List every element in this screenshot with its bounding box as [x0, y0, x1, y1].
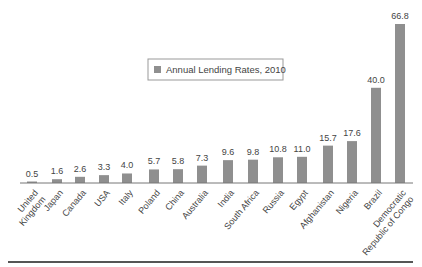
- value-label: 1.6: [51, 166, 64, 176]
- value-label: 5.7: [148, 156, 161, 166]
- value-label: 10.8: [269, 144, 287, 154]
- bar: [197, 166, 207, 183]
- bar: [52, 179, 62, 183]
- category-label: Brazil: [362, 188, 384, 212]
- bar: [347, 141, 357, 183]
- bar: [395, 24, 405, 183]
- bar: [99, 175, 109, 183]
- bar: [248, 160, 258, 183]
- value-label: 15.7: [319, 133, 337, 143]
- value-label: 0.5: [26, 169, 39, 179]
- value-label: 3.3: [98, 162, 111, 172]
- value-label: 7.3: [196, 153, 209, 163]
- legend-label: Annual Lending Rates, 2010: [166, 64, 286, 75]
- bar: [223, 160, 233, 183]
- value-label: 40.0: [367, 75, 385, 85]
- category-label: Russia: [261, 188, 286, 216]
- value-label: 2.6: [74, 164, 87, 174]
- category-label: Italy: [117, 188, 136, 207]
- category-label: China: [163, 188, 186, 212]
- category-label: DemocraticRepublic of Congo: [353, 188, 416, 258]
- lending-rates-bar-chart: 0.51.62.63.34.05.75.87.39.69.810.811.015…: [0, 0, 422, 267]
- bar: [173, 169, 183, 183]
- category-label: Nigeria: [334, 188, 360, 216]
- bar: [149, 169, 159, 183]
- category-label: Poland: [136, 188, 162, 216]
- category-label: India: [216, 188, 236, 209]
- bar: [323, 146, 333, 183]
- value-label: 5.8: [172, 156, 185, 166]
- bars-group: [27, 24, 405, 183]
- bar: [273, 157, 283, 183]
- category-labels-group: UnitedKingdomJapanCanadaUSAItalyPolandCh…: [9, 188, 415, 258]
- value-label: 11.0: [294, 144, 311, 154]
- value-label: 4.0: [121, 160, 134, 170]
- legend: Annual Lending Rates, 2010: [148, 59, 286, 80]
- legend-swatch: [154, 66, 161, 73]
- bar: [75, 177, 85, 183]
- category-label: USA: [92, 188, 112, 209]
- value-label: 9.8: [247, 147, 260, 157]
- bar: [371, 88, 381, 183]
- value-label: 17.6: [343, 128, 361, 138]
- category-label: Australia: [180, 188, 210, 221]
- bar: [122, 173, 132, 183]
- category-label: Canada: [60, 188, 88, 219]
- value-label: 66.8: [391, 11, 409, 21]
- category-label: Egypt: [287, 188, 310, 212]
- value-label: 9.6: [222, 147, 235, 157]
- bar: [297, 157, 307, 183]
